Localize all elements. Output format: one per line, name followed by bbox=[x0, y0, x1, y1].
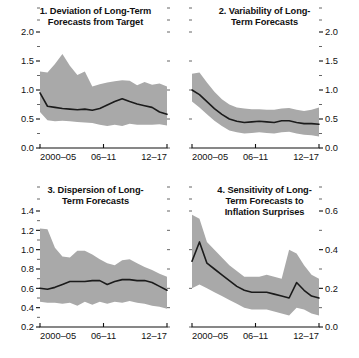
y-tick-label: 0.0 bbox=[325, 143, 338, 153]
x-tick-label: 2000–05 bbox=[40, 331, 76, 341]
y-tick-label: 1.0 bbox=[21, 85, 34, 95]
y-tick-label: 0.2 bbox=[325, 284, 338, 294]
confidence-band bbox=[40, 54, 167, 126]
x-tick-label: 12–17 bbox=[293, 331, 319, 341]
y-tick-label: 0.6 bbox=[21, 284, 34, 294]
y-tick-label: 0.5 bbox=[325, 114, 338, 124]
y-tick-label: 0.8 bbox=[21, 264, 34, 274]
panel-2: 2. Variability of Long- Term Forecasts 0… bbox=[180, 0, 359, 179]
y-tick-label: 1.0 bbox=[325, 85, 338, 95]
x-tick-label: 06–11 bbox=[91, 331, 116, 341]
x-tick-label: 06–11 bbox=[243, 331, 268, 341]
y-tick-label: 1.0 bbox=[21, 245, 34, 255]
y-tick-label: 0.5 bbox=[21, 114, 34, 124]
y-tick-label: 0.4 bbox=[325, 245, 338, 255]
confidence-band bbox=[40, 228, 167, 308]
confidence-band bbox=[192, 215, 319, 316]
x-tick-label: 2000–05 bbox=[192, 331, 228, 341]
x-tick-label: 12–17 bbox=[141, 331, 167, 341]
x-tick-label: 2000–05 bbox=[192, 152, 228, 162]
x-tick-label: 2000–05 bbox=[40, 152, 76, 162]
figure-root: 1. Deviation of Long-Term Forecasts from… bbox=[0, 0, 359, 358]
x-tick-label: 12–17 bbox=[293, 152, 319, 162]
y-tick-label: 2.0 bbox=[21, 27, 34, 37]
x-tick-label: 12–17 bbox=[141, 152, 167, 162]
y-tick-label: 0.0 bbox=[325, 322, 338, 332]
panel-1: 1. Deviation of Long-Term Forecasts from… bbox=[0, 0, 179, 179]
panel-1-plot: 0.00.51.01.52.02000–0506–1112–17 bbox=[0, 0, 179, 179]
y-tick-label: 1.5 bbox=[21, 56, 34, 66]
y-tick-label: 0.6 bbox=[325, 206, 338, 216]
panel-2-plot: 0.00.51.01.52.02000–0506–1112–17 bbox=[180, 0, 359, 179]
y-tick-label: 1.4 bbox=[21, 206, 34, 216]
x-tick-label: 06–11 bbox=[91, 152, 116, 162]
x-tick-label: 06–11 bbox=[243, 152, 268, 162]
panel-4: 4. Sensitivity of Long- Term Forecasts t… bbox=[180, 179, 359, 358]
y-tick-label: 0.0 bbox=[21, 143, 34, 153]
y-tick-label: 1.5 bbox=[325, 56, 338, 66]
y-tick-label: 0.2 bbox=[21, 322, 34, 332]
panel-3: 3. Dispersion of Long- Term Forecasts 0.… bbox=[0, 179, 179, 358]
y-tick-label: 2.0 bbox=[325, 27, 338, 37]
panel-3-plot: 0.20.40.60.81.01.21.42000–0506–1112–17 bbox=[0, 179, 179, 358]
panel-4-plot: 0.00.20.40.62000–0506–1112–17 bbox=[180, 179, 359, 358]
y-tick-label: 0.4 bbox=[21, 303, 34, 313]
y-tick-label: 1.2 bbox=[21, 226, 34, 236]
